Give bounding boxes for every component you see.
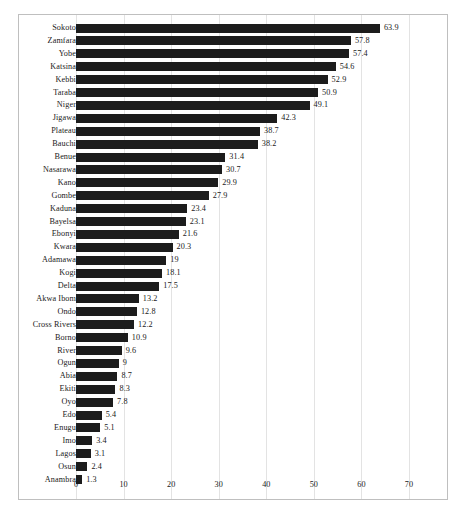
bar-track: 8.3 [76,382,447,396]
category-label: Oyo [19,395,76,409]
category-label-wrap: Ondo [19,305,76,319]
bar-value-label: 9.6 [126,344,137,358]
bar [76,114,277,123]
x-tick-label: 60 [357,477,365,493]
bar-track: 30.7 [76,163,447,177]
bar-track: 57.4 [76,47,447,61]
bar-track: 29.9 [76,176,447,190]
bar [76,449,91,458]
category-label: Kano [19,176,76,190]
bar-row: Nasarawa30.7 [19,163,447,177]
bar [76,204,187,213]
category-label-wrap: Kano [19,176,76,190]
category-label-wrap: Kogi [19,266,76,280]
bar-track: 13.2 [76,292,447,306]
bar [76,462,87,471]
bar-track: 21.6 [76,227,447,241]
bar [76,436,92,445]
bar-value-label: 18.1 [166,266,181,280]
bar [76,359,119,368]
bar-row: Yobe57.4 [19,47,447,61]
bar-row: Bauchi38.2 [19,137,447,151]
category-label: Delta [19,279,76,293]
category-label-wrap: River [19,344,76,358]
category-label: Kaduna [19,202,76,216]
category-label-wrap: Imo [19,434,76,448]
category-label-wrap: Anambra [19,473,76,487]
category-label-wrap: Delta [19,279,76,293]
category-label-wrap: Sokoto [19,21,76,35]
bar-track: 63.9 [76,21,447,35]
bar-chart-figure: Sokoto63.9Zamfara57.8Yobe57.4Katsina54.6… [0,0,467,517]
bar-track: 50.9 [76,86,447,100]
x-axis-tick-labels: 010203040506070 [76,477,447,493]
category-label: Borno [19,331,76,345]
bar-value-label: 9 [123,356,127,370]
bar-track: 42.3 [76,111,447,125]
bar-row: Cross Rivers12.2 [19,318,447,332]
category-label-wrap: Katsina [19,60,76,74]
bar [76,307,137,316]
category-label: Anambra [19,473,76,487]
bar-value-label: 29.9 [222,176,237,190]
category-label-wrap: Taraba [19,86,76,100]
category-label: Niger [19,98,76,112]
bar-value-label: 23.1 [190,215,205,229]
bar-value-label: 21.6 [183,227,198,241]
bar-track: 8.7 [76,369,447,383]
category-label: Nasarawa [19,163,76,177]
bar-track: 9.6 [76,344,447,358]
bar-value-label: 17.5 [163,279,178,293]
bar-track: 54.6 [76,60,447,74]
category-label: Sokoto [19,21,76,35]
bar-value-label: 50.9 [322,86,337,100]
category-label-wrap: Borno [19,331,76,345]
category-label-wrap: Cross Rivers [19,318,76,332]
category-label-wrap: Kaduna [19,202,76,216]
bar-track: 49.1 [76,98,447,112]
bar-row: Ekiti8.3 [19,382,447,396]
category-label: Ondo [19,305,76,319]
bar [76,256,166,265]
bar [76,269,162,278]
category-label: Plateau [19,124,76,138]
bar [76,140,258,149]
category-label: Osun [19,460,76,474]
bar [76,36,351,45]
bar-value-label: 8.7 [121,369,132,383]
bar-track: 19 [76,253,447,267]
bar-row: Akwa Ibom13.2 [19,292,447,306]
x-tick-label: 50 [310,477,318,493]
bar-track: 10.9 [76,331,447,345]
category-label-wrap: Ebonyi [19,227,76,241]
bar-row: Katsina54.6 [19,60,447,74]
bar-track: 31.4 [76,150,447,164]
bar [76,101,310,110]
bar-value-label: 7.8 [117,395,128,409]
bar-row: Enugu5.1 [19,421,447,435]
category-label-wrap: Bayelsa [19,215,76,229]
bar [76,217,186,226]
bar-row: Delta17.5 [19,279,447,293]
category-label: Taraba [19,86,76,100]
bar [76,320,134,329]
bar [76,346,122,355]
bar-track: 18.1 [76,266,447,280]
bar-row: Abia8.7 [19,369,447,383]
bar-value-label: 12.8 [141,305,156,319]
category-label: Cross Rivers [19,318,76,332]
category-label-wrap: Plateau [19,124,76,138]
bar-value-label: 27.9 [213,189,228,203]
bar-row: Ebonyi21.6 [19,227,447,241]
category-label: Jigawa [19,111,76,125]
category-label-wrap: Kebbi [19,73,76,87]
category-label: Kwara [19,240,76,254]
bar-track: 12.8 [76,305,447,319]
category-label: Akwa Ibom [19,292,76,306]
x-tick-label: 40 [262,477,270,493]
bar-row: Edo5.4 [19,408,447,422]
bar-row: Oyo7.8 [19,395,447,409]
bar-row: Borno10.9 [19,331,447,345]
bar-value-label: 13.2 [143,292,158,306]
bar-value-label: 63.9 [384,21,399,35]
